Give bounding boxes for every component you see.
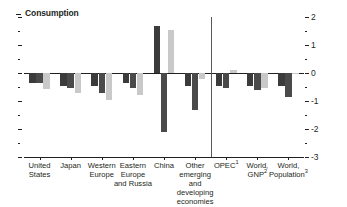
x-tick-5 xyxy=(164,157,165,160)
y-minor-tick-left xyxy=(18,87,20,88)
y-minor-tick-left xyxy=(18,59,20,60)
y-tick-label--1: -1 xyxy=(311,97,319,106)
bar-2-series-3 xyxy=(75,73,82,93)
x-tick-8 xyxy=(257,157,258,160)
y-minor-tick-right xyxy=(305,59,307,60)
bar-8-series-1 xyxy=(247,73,254,86)
y-tick-right-2 xyxy=(305,17,309,18)
y-minor-tick-left xyxy=(18,143,20,144)
bar-5-series-2 xyxy=(161,73,168,132)
y-tick-label-1: 1 xyxy=(311,41,316,50)
bar-7-series-1 xyxy=(216,73,223,86)
y-tick-right--2 xyxy=(305,129,309,130)
bar-5-series-1 xyxy=(154,26,161,73)
y-tick-right--1 xyxy=(305,101,309,102)
x-tick-9 xyxy=(288,157,289,160)
x-tick-2 xyxy=(71,157,72,160)
y-tick-left--2 xyxy=(18,129,22,130)
x-tick-1 xyxy=(40,157,41,160)
bar-8-series-2 xyxy=(254,73,261,90)
x-tick-7 xyxy=(226,157,227,160)
y-tick-label--2: -2 xyxy=(311,125,319,134)
bar-8-series-3 xyxy=(261,73,268,88)
y-tick-left-2 xyxy=(18,17,22,18)
bar-1-series-3 xyxy=(43,73,50,89)
y-minor-tick-right xyxy=(305,87,307,88)
bar-3-series-3 xyxy=(106,73,113,100)
group-separator-line xyxy=(211,17,212,157)
bar-9-series-1 xyxy=(278,73,285,86)
y-minor-tick-left xyxy=(18,31,20,32)
bar-2-series-1 xyxy=(60,73,67,86)
bar-9-series-3 xyxy=(292,73,299,74)
y-tick-left--1 xyxy=(18,101,22,102)
bar-9-series-2 xyxy=(285,73,292,97)
bar-1-series-2 xyxy=(36,73,43,83)
consumption-bar-chart: Consumption 210-1-2-3 UnitedStatesJapanW… xyxy=(0,0,347,207)
bar-7-series-3 xyxy=(230,70,237,73)
y-tick-left-0 xyxy=(18,73,22,74)
bar-1-series-1 xyxy=(29,73,36,83)
bar-6-series-2 xyxy=(192,73,199,110)
x-tick-4 xyxy=(133,157,134,160)
y-tick-left--3 xyxy=(18,157,22,158)
y-minor-tick-left xyxy=(18,115,20,116)
y-tick-label-0: 0 xyxy=(311,69,316,78)
bar-4-series-2 xyxy=(130,73,137,88)
y-tick-right-1 xyxy=(305,45,309,46)
y-tick-label-2: 2 xyxy=(311,13,316,22)
bar-6-series-3 xyxy=(199,73,206,79)
x-axis-label-9: World,Population3 xyxy=(266,161,311,179)
bar-4-series-3 xyxy=(137,73,144,95)
y-tick-right-0 xyxy=(305,73,309,74)
x-tick-6 xyxy=(195,157,196,160)
bar-3-series-2 xyxy=(99,73,106,93)
bar-6-series-1 xyxy=(185,73,192,86)
y-tick-right--3 xyxy=(305,157,309,158)
bar-5-series-3 xyxy=(168,30,175,73)
bar-3-series-1 xyxy=(91,73,98,86)
y-tick-label--3: -3 xyxy=(311,153,319,162)
title-tick-dash xyxy=(16,14,21,15)
y-minor-tick-right xyxy=(305,31,307,32)
y-tick-left-1 xyxy=(18,45,22,46)
y-minor-tick-right xyxy=(305,115,307,116)
x-tick-3 xyxy=(102,157,103,160)
y-minor-tick-right xyxy=(305,143,307,144)
bar-7-series-2 xyxy=(223,73,230,88)
bar-4-series-1 xyxy=(123,73,130,83)
bar-2-series-2 xyxy=(67,73,74,88)
